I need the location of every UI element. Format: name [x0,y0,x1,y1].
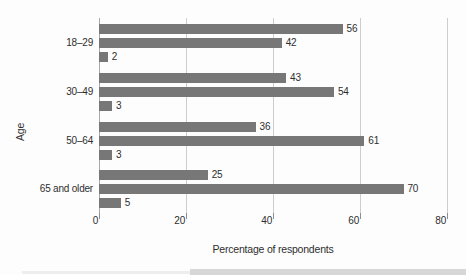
value-label: 56 [347,24,358,34]
bar-group2-series3 [99,101,112,111]
bar-group3-series3 [99,150,112,160]
category-label: 30–49 [3,87,93,97]
value-label: 3 [116,150,121,160]
bar-group3-series2 [99,136,364,146]
bar-group2-series1 [99,73,286,83]
value-label: 5 [125,198,130,208]
value-label: 54 [338,87,349,97]
value-label: 3 [116,101,121,111]
value-label: 42 [286,38,297,48]
value-label: 25 [212,170,223,180]
page-edge-artifact-left [22,271,190,274]
value-label: 36 [260,122,271,132]
bar-group1-series2 [99,38,282,48]
x-tick-mark [360,213,361,219]
x-tick-mark [273,213,274,219]
bar-group2-series2 [99,87,334,97]
bar-group4-series2 [99,184,404,194]
category-label: 18–29 [3,38,93,48]
value-label: 61 [368,136,379,146]
x-tick-label: 40 [228,216,272,226]
page-edge-artifact-right [190,269,466,275]
x-tick-label: 80 [402,216,446,226]
x-tick-label: 60 [315,216,359,226]
x-tick-mark [447,213,448,219]
figure-container: Age 56422435433661325705 18–2930–4950–64… [0,0,466,275]
bar-group1-series3 [99,52,108,62]
plot-area: 56422435433661325705 [99,18,447,213]
x-tick-mark [99,213,100,219]
x-tick-label: 0 [54,216,98,226]
x-tick-mark [186,213,187,219]
bar-group3-series1 [99,122,256,132]
category-label: 50–64 [3,136,93,146]
x-axis-title: Percentage of respondents [99,243,447,255]
value-label: 2 [112,52,117,62]
bar-group1-series1 [99,24,343,34]
value-label: 43 [290,73,301,83]
gridline-80 [447,18,448,213]
value-label: 70 [408,184,419,194]
bar-group4-series1 [99,170,208,180]
bar-group4-series3 [99,198,121,208]
x-tick-label: 20 [141,216,185,226]
category-label: 65 and older [3,184,93,194]
